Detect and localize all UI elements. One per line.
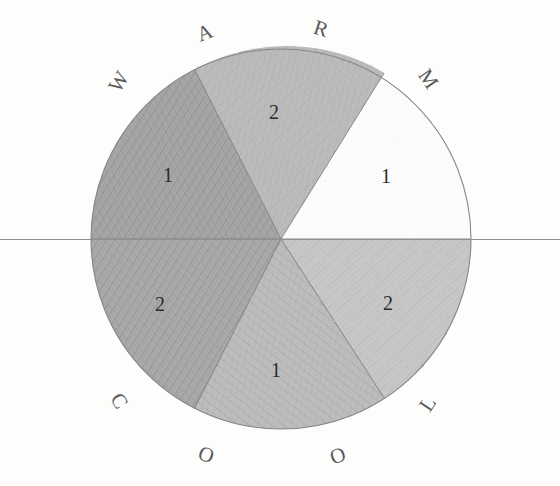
colour-wheel-diagram bbox=[0, 0, 560, 486]
sector-number-warm-3: 1 bbox=[381, 166, 391, 186]
sector-number-cool-1: 1 bbox=[271, 360, 281, 380]
sector-number-warm-1: 1 bbox=[163, 165, 173, 185]
sector-number-cool-2: 2 bbox=[383, 293, 393, 313]
sector-number-warm-2: 2 bbox=[269, 102, 279, 122]
sector-number-cool-3: 2 bbox=[155, 294, 165, 314]
figure-canvas: W A R M C O O L 1 2 1 2 1 2 bbox=[0, 0, 560, 486]
